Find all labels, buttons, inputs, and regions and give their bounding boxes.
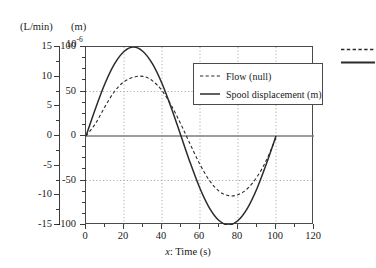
left-axis-minor-tick	[56, 61, 60, 62]
inner-axis-tick-label: -50	[42, 175, 76, 186]
left-axis-minor-tick	[56, 150, 60, 151]
left-axis-tick-label: -10	[22, 189, 52, 200]
x-axis-tick-label: 100	[255, 231, 295, 242]
right-axis-unit-label: (m)	[71, 22, 86, 33]
x-axis-title: x: Time (s)	[0, 246, 376, 257]
x-axis-tick-label: 0	[65, 231, 105, 242]
x-axis-tick-label: 60	[179, 231, 219, 242]
x-axis-tick-label: 40	[141, 231, 181, 242]
legend-item-spool: Spool displacement (m)	[200, 86, 322, 102]
left-axis-minor-tick	[56, 209, 60, 210]
legend-box: Flow (null) Spool displacement (m)	[193, 63, 323, 105]
left-axis-major-tick	[54, 76, 60, 77]
external-dashed-line-icon	[341, 45, 375, 54]
x-axis-tick-label: 20	[103, 231, 143, 242]
legend-label-flow: Flow (null)	[226, 71, 271, 82]
left-axis-unit-label: (L/min)	[20, 22, 53, 33]
left-axis-tick-label: -5	[22, 160, 52, 171]
chart-figure: (L/min) (m) 10-6 151050-5-10-15 100500-5…	[0, 0, 376, 268]
left-axis-major-tick	[54, 165, 60, 166]
legend-label-spool: Spool displacement (m)	[226, 89, 322, 100]
left-axis-major-tick	[54, 194, 60, 195]
x-axis-tick-label: 120	[293, 231, 333, 242]
inner-axis-tick-label: 0	[42, 130, 76, 141]
inner-axis-tick-label: 100	[42, 41, 76, 52]
external-solid-line-icon	[341, 58, 375, 67]
left-axis-major-tick	[54, 105, 60, 106]
legend-item-flow: Flow (null)	[200, 68, 271, 84]
x-axis-tick-label: 80	[217, 231, 257, 242]
left-axis-tick-label: 10	[22, 71, 52, 82]
legend-solid-line-icon	[200, 90, 220, 98]
left-axis-tick-label: 5	[22, 100, 52, 111]
left-axis-minor-tick	[56, 120, 60, 121]
inner-axis-tick-label: -100	[42, 219, 76, 230]
inner-axis-tick-label: 50	[42, 86, 76, 97]
legend-dashed-line-icon	[200, 72, 220, 80]
